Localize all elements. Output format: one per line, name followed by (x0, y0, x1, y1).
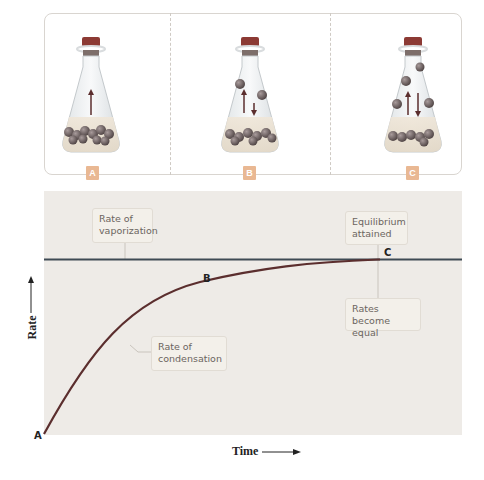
callout-vaporization: Rate of vaporization (92, 208, 153, 243)
point-c-label: C (384, 247, 391, 258)
x-axis-label: Time (232, 444, 258, 459)
callout-rates-equal: Rates become equal (345, 298, 421, 331)
condensation-leader (130, 345, 151, 352)
point-a-label: A (34, 430, 42, 441)
y-axis-label: Rate (25, 308, 40, 348)
callout-equilibrium: Equilibrium attained (345, 211, 408, 245)
rate-arrow-icon (28, 276, 34, 283)
rate-chart (0, 0, 484, 480)
callout-condensation: Rate of condensation (151, 336, 227, 371)
point-b-label: B (203, 273, 211, 284)
time-arrow-icon (293, 449, 301, 455)
